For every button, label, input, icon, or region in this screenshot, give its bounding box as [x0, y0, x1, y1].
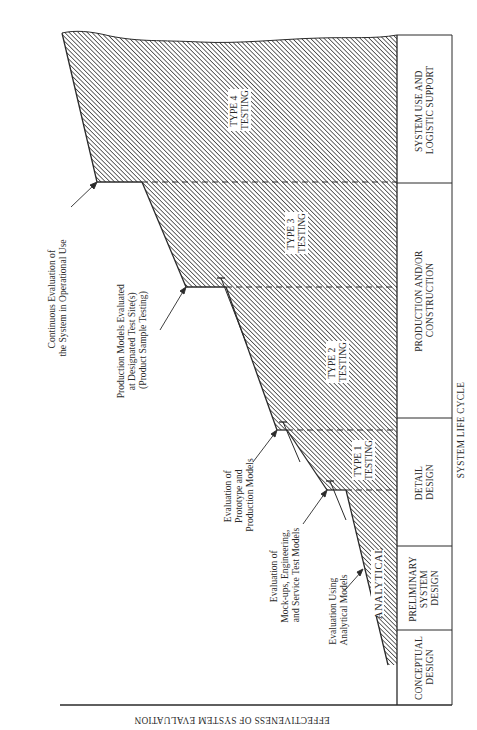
- region-type1: [287, 430, 397, 490]
- phase-labels: CONCEPTUAL DESIGN PRELIMINARY SYSTEM DES…: [408, 66, 440, 700]
- svg-text:TYPE 4 TESTING: TYPE 4 TESTING: [228, 90, 250, 130]
- annotation-continuous: Continuous Evaluation of the System in O…: [46, 239, 68, 356]
- annotation-prototype: Evaluation of Prototype and Production M…: [222, 458, 255, 532]
- arrowhead-icon: [321, 490, 327, 497]
- label-type4: TYPE 4 TESTING: [228, 89, 251, 131]
- x-axis-label: SYSTEM LIFE CYCLE: [456, 382, 466, 479]
- phase-conceptual: CONCEPTUAL DESIGN: [414, 634, 435, 700]
- svg-text:ANALYTICAL: ANALYTICAL: [373, 547, 384, 620]
- annotation-mockups: Evaluation of Mock-ups, Engineering, and…: [268, 527, 301, 622]
- label-type1: TYPE 1 TESTING: [352, 440, 375, 480]
- annotation-analytical-models: Evaluation Using Analytical Models: [327, 574, 349, 645]
- y-axis-label: EFFECTIVENESS OF SYSTEM EVALUATION: [134, 715, 330, 725]
- phase-preliminary: PRELIMINARY SYSTEM DESIGN: [408, 554, 440, 622]
- label-analytical: ANALYTICAL: [371, 547, 384, 620]
- arrowhead-icon: [180, 287, 186, 294]
- phase-detail: DETAIL DESIGN: [414, 464, 435, 500]
- svg-text:TYPE 3 TESTING: TYPE 3 TESTING: [285, 213, 307, 253]
- label-type2: TYPE 2 TESTING: [326, 341, 349, 383]
- svg-text:TYPE 2 TESTING: TYPE 2 TESTING: [326, 342, 348, 382]
- svg-text:TYPE 1 TESTING: TYPE 1 TESTING: [352, 440, 374, 480]
- system-evaluation-diagram: CONCEPTUAL DESIGN PRELIMINARY SYSTEM DES…: [0, 0, 477, 730]
- arrowhead-icon: [271, 430, 277, 437]
- annotation-production-models: Production Models Evaluated at Designate…: [115, 282, 149, 398]
- region-type3: [142, 182, 397, 287]
- label-type3: TYPE 3 TESTING: [285, 212, 308, 254]
- phase-production: PRODUCTION AND/OR CONSTRUCTION: [414, 248, 435, 352]
- phase-system-use: SYSTEM USE AND LOGISTIC SUPPORT: [414, 66, 435, 154]
